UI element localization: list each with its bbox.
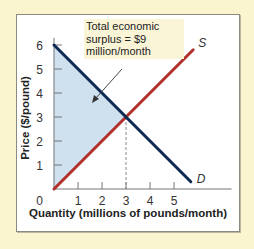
surplus-annotation: Total economic surplus = $9 million/mont… bbox=[84, 19, 184, 59]
x-tick-label: 3 bbox=[123, 194, 130, 208]
x-tick-label: 2 bbox=[99, 194, 106, 208]
x-tick-label: 1 bbox=[75, 194, 82, 208]
surplus-shaded-area bbox=[54, 45, 126, 189]
y-tick-label: 6 bbox=[36, 39, 43, 53]
y-axis-title: Price ($/pound) bbox=[19, 76, 31, 160]
annotation-line-2: surplus = $9 bbox=[86, 33, 182, 46]
supply-label: S bbox=[198, 36, 206, 50]
annotation-line-1: Total economic bbox=[86, 20, 182, 33]
y-tick-label: 5 bbox=[36, 63, 43, 77]
y-tick-label: 1 bbox=[36, 159, 43, 173]
y-tick-label: 2 bbox=[36, 135, 43, 149]
x-tick-label: 0 bbox=[36, 194, 43, 208]
x-axis-title: Quantity (millions of pounds/month) bbox=[29, 207, 227, 219]
x-tick-label: 4 bbox=[147, 194, 154, 208]
y-tick-label: 4 bbox=[36, 87, 43, 101]
y-tick-label: 3 bbox=[36, 111, 43, 125]
x-tick-label: 5 bbox=[171, 194, 178, 208]
annotation-arrow bbox=[96, 69, 122, 98]
annotation-line-3: million/month bbox=[86, 45, 182, 58]
demand-label: D bbox=[197, 172, 206, 186]
